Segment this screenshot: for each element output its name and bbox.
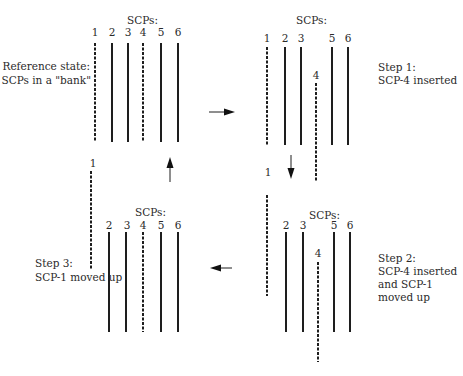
panel-step1: SCPs: 1 2 3 5 6 4 Step 1: SCP-4 inserted (264, 14, 458, 182)
step1-label-scp-5: 5 (329, 32, 336, 44)
step2-label-scp-2: 2 (283, 219, 290, 231)
step3-label-scp-1: 1 (90, 157, 97, 169)
reference-header: SCPs: (127, 14, 158, 26)
reference-caption-line-1: Reference state: (3, 60, 91, 72)
arrow-right-icon (209, 109, 235, 116)
step2-label-scp-3: 3 (300, 219, 307, 231)
arrow-down-icon (288, 155, 295, 179)
step3-label-scp-3: 3 (124, 219, 131, 231)
step1-label-scp-6: 6 (345, 32, 352, 44)
step3-header: SCPs: (135, 206, 166, 218)
step1-caption-line-2: SCP-4 inserted (378, 74, 457, 86)
reference-label-scp-1: 1 (92, 26, 99, 38)
step3-caption-line-1: Step 3: (35, 257, 73, 269)
step3-label-scp-6: 6 (175, 219, 182, 231)
reference-label-scp-6: 6 (175, 26, 182, 38)
reference-label-scp-5: 5 (158, 26, 165, 38)
step3-label-scp-4: 4 (140, 219, 147, 231)
step3-label-scp-2: 2 (106, 219, 113, 231)
reference-caption-line-2: 6 SCPs in a "bank" (0, 74, 91, 86)
scp-cycle-diagram: SCPs: 1 2 3 4 5 6 Reference state: 6 SCP… (0, 0, 463, 376)
reference-label-scp-2: 2 (109, 26, 116, 38)
step1-caption-line-1: Step 1: (378, 61, 416, 73)
reference-label-scp-3: 3 (125, 26, 132, 38)
step1-label-scp-2: 2 (282, 32, 289, 44)
step2-caption-line-1: Step 2: (378, 252, 416, 264)
arrow-left-icon (210, 265, 232, 272)
step2-caption-line-4: moved up (378, 291, 430, 303)
step1-label-scp-3: 3 (298, 32, 305, 44)
step2-label-scp-5: 5 (331, 219, 338, 231)
panel-step2: 1 SCPs: 2 3 5 6 4 Step 2: SCP-4 inserted… (265, 166, 458, 362)
step2-caption-line-2: SCP-4 inserted (378, 265, 457, 277)
step1-label-scp-4: 4 (313, 69, 320, 81)
step1-header: SCPs: (296, 14, 327, 26)
step2-caption-line-3: and SCP-1 (378, 278, 433, 290)
step1-label-scp-1: 1 (264, 32, 271, 44)
reference-label-scp-4: 4 (140, 26, 147, 38)
step2-label-scp-4: 4 (315, 247, 322, 259)
step2-label-scp-1: 1 (265, 166, 272, 178)
panel-reference: SCPs: 1 2 3 4 5 6 Reference state: 6 SCP… (0, 14, 182, 142)
step3-label-scp-5: 5 (158, 219, 165, 231)
step2-label-scp-6: 6 (347, 219, 354, 231)
arrow-up-icon (167, 157, 174, 182)
panel-step3: 1 SCPs: 2 3 4 5 6 Step 3: SCP-1 moved up (35, 157, 182, 332)
step3-caption-line-2: SCP-1 moved up (35, 271, 123, 283)
